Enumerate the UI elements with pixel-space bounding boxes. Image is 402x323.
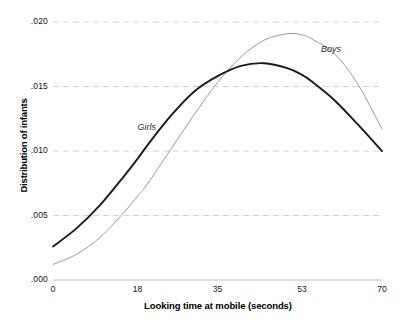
x-tick-label: 18 [118, 284, 158, 294]
y-tick-label: .005 [8, 210, 48, 220]
y-tick-label: .010 [8, 145, 48, 155]
x-axis-title: Looking time at mobile (seconds) [53, 300, 383, 311]
x-axis-tick-labels: 018355370 [53, 284, 382, 298]
y-tick-label: .020 [8, 16, 48, 26]
x-tick-label: 35 [198, 284, 238, 294]
series-curve-girls [53, 63, 382, 246]
data-curves [53, 22, 382, 280]
chart-figure: Distribution of infants .000.005.010.015… [0, 0, 402, 323]
series-curve-boys [53, 33, 382, 264]
y-tick-label: .000 [8, 274, 48, 284]
series-label-girls: Girls [138, 122, 157, 132]
x-tick-label: 0 [33, 284, 73, 294]
y-tick-label: .015 [8, 81, 48, 91]
series-label-boys: Boys [321, 44, 341, 54]
x-tick-label: 53 [282, 284, 322, 294]
x-tick-label: 70 [362, 284, 402, 294]
plot-area [53, 22, 382, 280]
y-axis-tick-labels: .000.005.010.015.020 [0, 0, 48, 323]
